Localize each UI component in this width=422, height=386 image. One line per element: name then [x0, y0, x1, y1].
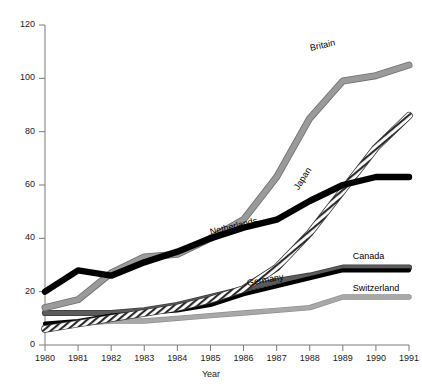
line-chart: 020406080100120 198019811982198319841985… [0, 0, 422, 386]
x-tick-label: 1986 [227, 353, 261, 363]
plot-area [0, 0, 422, 386]
x-tick-label: 1987 [260, 353, 294, 363]
y-tick-label: 40 [9, 232, 35, 242]
x-tick-label: 1989 [326, 353, 360, 363]
x-tick-label: 1985 [193, 353, 227, 363]
series-label-switzerland: Switzerland [353, 283, 400, 293]
x-tick-label: 1991 [392, 353, 422, 363]
y-tick-label: 60 [9, 179, 35, 189]
x-tick-label: 1988 [293, 353, 327, 363]
y-tick-label: 100 [9, 72, 35, 82]
y-tick-label: 20 [9, 286, 35, 296]
x-tick-label: 1984 [160, 353, 194, 363]
y-tick-label: 120 [9, 19, 35, 29]
y-tick-label: 0 [9, 339, 35, 349]
x-axis-title: Year [0, 369, 422, 379]
x-tick-label: 1982 [94, 353, 128, 363]
x-tick-label: 1990 [359, 353, 393, 363]
y-tick-label: 80 [9, 126, 35, 136]
x-tick-label: 1981 [61, 353, 95, 363]
x-tick-label: 1980 [28, 353, 62, 363]
x-tick-label: 1983 [127, 353, 161, 363]
series-label-canada: Canada [353, 251, 385, 261]
series-line-netherlands [45, 177, 409, 292]
